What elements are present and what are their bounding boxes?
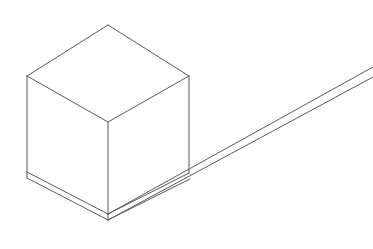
line-drawing-svg: [0, 0, 373, 249]
drawing-canvas: [0, 0, 373, 249]
canvas-background: [0, 0, 373, 249]
